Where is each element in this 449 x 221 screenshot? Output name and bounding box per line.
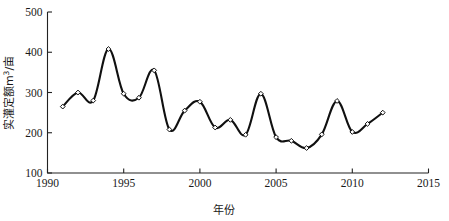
tick-marks (48, 12, 429, 173)
y-tick-label: 300 (25, 87, 43, 99)
data-series (63, 49, 383, 148)
chart-figure: 199019952000200520102015 100200300400500… (0, 0, 449, 221)
x-tick-label: 2000 (188, 177, 211, 189)
y-tick-label: 500 (25, 6, 43, 18)
data-point-marker (304, 146, 309, 151)
svg-text:实灌定额m3/亩: 实灌定额m3/亩 (2, 56, 16, 130)
x-tick-label: 2015 (417, 177, 440, 189)
series-line-irrigation-quota (63, 49, 383, 148)
x-axis-title: 年份 (213, 203, 235, 217)
axes (48, 12, 429, 173)
line-chart: 199019952000200520102015 100200300400500… (0, 0, 449, 221)
y-axis-title-tail: /亩 (2, 56, 16, 71)
y-axis-title: 实灌定额m3/亩 (2, 56, 16, 130)
y-tick-label: 100 (25, 167, 43, 179)
y-tick-label: 200 (25, 127, 43, 139)
axis-spines (48, 12, 429, 173)
x-tick-labels: 199019952000200520102015 (36, 177, 440, 189)
x-tick-label: 2010 (341, 177, 364, 189)
x-tick-label: 2005 (265, 177, 288, 189)
y-axis-title-base: 实灌定额m (2, 75, 16, 130)
data-markers (60, 47, 385, 151)
y-tick-label: 400 (25, 46, 43, 58)
y-tick-labels: 100200300400500 (25, 6, 43, 179)
x-tick-label: 1995 (112, 177, 135, 189)
